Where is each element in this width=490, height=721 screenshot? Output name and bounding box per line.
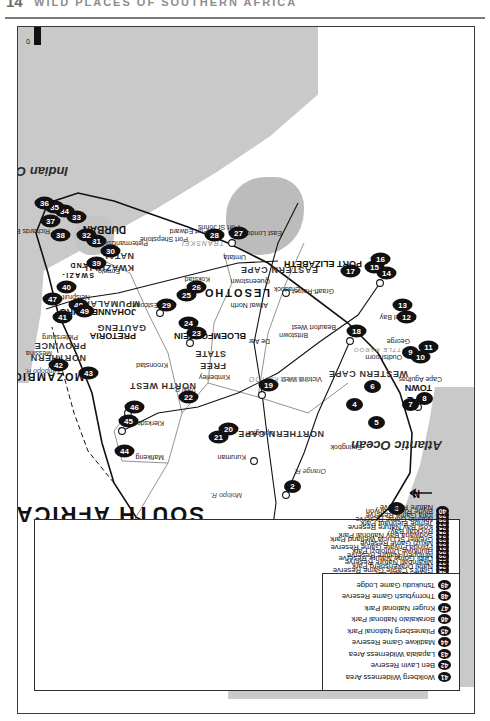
map-pin-38[interactable]: 38: [51, 229, 71, 242]
legend-item-label: Thornybush Game Reserve: [342, 592, 435, 601]
north-arrow-label: N: [413, 488, 420, 499]
legend-item-number: 46: [438, 615, 451, 625]
city-label-pretoria: PRETORIA: [90, 331, 136, 341]
map-pin-42[interactable]: 42: [49, 359, 69, 372]
map-pin-6[interactable]: 6: [364, 380, 381, 393]
map-pin-37[interactable]: 37: [41, 215, 61, 228]
map-pin-44[interactable]: 44: [115, 445, 135, 458]
map-pin-29[interactable]: 29: [157, 299, 177, 312]
city-label-bloemfontein: BLOEMFONTEIN: [174, 331, 246, 341]
legend-item-label: Nature Reserve: [380, 503, 433, 512]
town-label-ermelo: Ermelo: [98, 268, 120, 275]
town-label-port-edward: Port Edward: [169, 228, 208, 235]
map-pin-18[interactable]: 18: [347, 325, 367, 338]
map-pin-47[interactable]: 47: [43, 293, 63, 306]
town-label-de-aar: De Aar: [249, 338, 270, 345]
town-label-cradock: Cradock: [274, 286, 300, 293]
country-label-lesotho: LESOTHO: [203, 287, 270, 299]
legend-item-label: Pilanesberg National Park: [347, 627, 435, 636]
legend-item-48: 48Thornybush Game Reserve: [342, 592, 451, 602]
map-pin-13[interactable]: 13: [393, 299, 413, 312]
legend-item-47: 47Kruger National Park: [365, 603, 452, 613]
province-label-free: FREE: [200, 361, 226, 371]
map-pin-22[interactable]: 22: [179, 391, 199, 404]
map-pin-17[interactable]: 17: [341, 265, 361, 278]
legend-item-cont-43: Nature Reserve: [380, 502, 449, 512]
legend-item-label: Tshukudu Game Lodge: [356, 581, 435, 590]
legend-item-44: 44Madikwe Game Reserve: [352, 638, 451, 648]
legend-item-label: Wolkberg Wilderness Area: [346, 673, 435, 682]
page-folio: 14: [6, 0, 23, 10]
legend-item-number: 48: [438, 592, 451, 602]
town-label-kuruman: Kuruman: [218, 454, 246, 461]
scale-bar-track: [34, 27, 41, 45]
map-pin-21[interactable]: 21: [209, 431, 229, 444]
map-pin-30[interactable]: 30: [101, 245, 121, 258]
town-label-kroonstad: Kroonstad: [136, 362, 168, 369]
legend-item-number: 47: [438, 603, 451, 613]
river-label-orange: Orange R.: [294, 468, 326, 475]
legend-item-label: Kruger National Park: [365, 604, 436, 613]
ocean-label-atlantic: Atlantic Ocean: [351, 438, 442, 453]
map-pin-28[interactable]: 28: [205, 229, 225, 242]
map-pin-46[interactable]: 46: [125, 401, 145, 414]
map-pin-16[interactable]: 16: [371, 253, 391, 266]
map-pin-26[interactable]: 26: [187, 281, 207, 294]
legend-item-number: 44: [438, 638, 451, 648]
map-pin-24[interactable]: 24: [179, 317, 199, 330]
town-label-east-london: East London: [243, 230, 282, 237]
town-label-britstown: Britstown: [279, 332, 308, 339]
map-pin-49[interactable]: 49: [75, 305, 95, 318]
region-label-great-karoo: GREAT KAROO: [248, 376, 310, 383]
map-pin-11[interactable]: 11: [419, 341, 439, 354]
town-label-upington: Upington: [246, 430, 274, 437]
city-label-town: TOWN: [405, 383, 432, 393]
legend-item-number: 45: [438, 626, 451, 636]
map-pin-41[interactable]: 41: [53, 311, 73, 324]
map-pin-43[interactable]: 43: [79, 367, 99, 380]
legend-item-label: Madikwe Game Reserve: [352, 638, 435, 647]
town-label-mafikeng: Mafikeng: [136, 454, 164, 461]
town-label-beaufort-west: Beaufort West: [292, 324, 336, 331]
map-pin-5[interactable]: 5: [368, 416, 385, 429]
page-running-head: WILD PLACES OF SOUTHERN AFRICA: [34, 0, 297, 8]
map-pin-4[interactable]: 4: [346, 398, 363, 411]
town-label-aliwal-north: Aliwal North: [231, 302, 268, 309]
legend-item-41: 41Wolkberg Wilderness Area: [346, 672, 451, 682]
legend-item-number: 43: [438, 649, 451, 659]
town-label-umtata: Umtata: [223, 254, 246, 261]
map-pin-45[interactable]: 45: [119, 415, 139, 428]
country-label-swaziland-1: SWAZI-: [61, 272, 94, 279]
map-pin-36[interactable]: 36: [35, 197, 55, 210]
town-label-kimberley: Kimberley: [199, 374, 230, 381]
map-pin-39[interactable]: 39: [87, 257, 107, 270]
map-pin-8[interactable]: 8: [416, 392, 433, 405]
town-label-queenstown: Queenstown: [231, 278, 270, 285]
town-label-oudtshoorn: Oudtshoorn: [365, 354, 402, 361]
legend-item-number: 42: [438, 661, 451, 671]
map-pin-19[interactable]: 19: [259, 379, 279, 392]
legend-item-number-spacer: [436, 502, 449, 512]
region-label-little-karoo: LITTLE KAROO: [353, 347, 408, 353]
legend-secondary: 41Wolkberg Wilderness Area42Ben Lavin Re…: [322, 573, 460, 691]
province-label-western-cape: WESTERN CAPE: [328, 369, 408, 379]
legend-item-label: Borakalalo National Park: [351, 615, 435, 624]
town-label-messina: Messina: [26, 350, 52, 357]
map-canvas: NAMIBIA BOTSWANA MOZAMBIQUE LESOTHO SWAZ…: [18, 27, 474, 713]
legend-item-label: Lapalala Wilderness Area: [349, 650, 435, 659]
ocean-label-indian: Indian Ocean: [18, 164, 68, 179]
page-header: 14 WILD PLACES OF SOUTHERN AFRICA: [0, 0, 490, 18]
map-pin-27[interactable]: 27: [229, 227, 249, 240]
map-pin-2[interactable]: 2: [284, 480, 301, 493]
map-pin-12[interactable]: 12: [397, 311, 417, 324]
legend-item-49: 49Tshukudu Game Lodge: [356, 580, 451, 590]
map-pin-40[interactable]: 40: [57, 281, 77, 294]
town-label-estcourt: Estcourt: [132, 302, 158, 309]
legend-item-number: 49: [438, 580, 451, 590]
map-plate: NAMIBIA BOTSWANA MOZAMBIQUE LESOTHO SWAZ…: [17, 26, 475, 714]
legend-item-label: Ben Lavin Reserve: [371, 661, 435, 670]
river-label-molopo: Molopo R.: [210, 492, 242, 499]
header-divider: [5, 17, 485, 19]
map-pin-32[interactable]: 32: [77, 229, 97, 242]
legend-item-43: 43Lapalala Wilderness Area: [349, 649, 451, 659]
